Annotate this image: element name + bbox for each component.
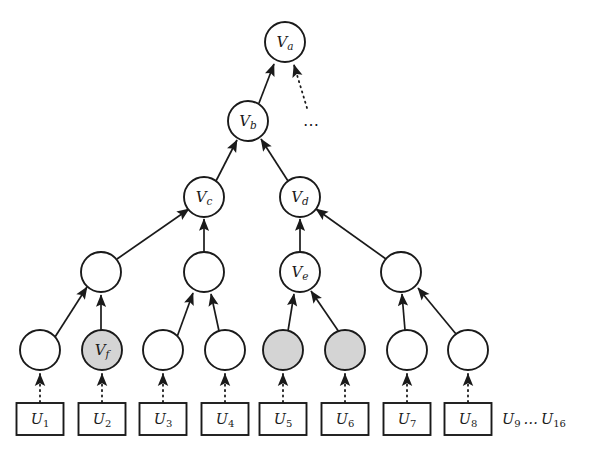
edge-Vd-to-Vb (261, 139, 288, 181)
node-n4g[interactable] (387, 330, 427, 370)
node-n4h[interactable] (448, 330, 488, 370)
leaf-U4[interactable]: U4 (202, 403, 249, 435)
node-n3b[interactable] (184, 252, 224, 292)
edge-n3d-to-Vd (316, 209, 386, 259)
node-circle-n3d (381, 252, 421, 292)
node-n4c[interactable] (143, 330, 183, 370)
node-n4a[interactable] (20, 330, 60, 370)
edge-n4f-to-Ve (311, 291, 339, 332)
node-circle-n3b (184, 252, 224, 292)
leaf-U5[interactable]: U5 (260, 403, 307, 435)
leaf-U1[interactable]: U1 (17, 403, 64, 435)
edge-n4d-to-n3b (211, 294, 219, 331)
node-circle-n4e (263, 330, 303, 370)
edge-n3a-to-Vc (117, 209, 189, 259)
edge-n4h-to-n3d (418, 288, 456, 334)
node-circle-n3a (81, 252, 121, 292)
edge-n4c-to-n3b (177, 293, 193, 337)
edge-n4a-to-n3a (55, 287, 87, 337)
node-n4f[interactable] (325, 330, 365, 370)
node-n3a[interactable] (81, 252, 121, 292)
node-Vb[interactable]: Vb (228, 101, 268, 141)
edge-dotted-ellipsis-to-Va (294, 65, 307, 108)
leaf-U8[interactable]: U8 (445, 403, 492, 435)
leaf-range-tail-label: U9 … U16 (502, 411, 566, 429)
edge-n4e-to-Ve (288, 294, 294, 331)
hierarchy-tree-diagram: Va Vb ⋯ Vc Vd (0, 0, 589, 450)
leaf-nodes-group: U1 U2 U3 U4 (17, 403, 566, 435)
node-circle-n4d (205, 330, 245, 370)
leaf-U2[interactable]: U2 (79, 403, 126, 435)
node-circle-n4a (20, 330, 60, 370)
node-circle-n4c (143, 330, 183, 370)
node-n3d[interactable] (381, 252, 421, 292)
node-circle-n4g (387, 330, 427, 370)
node-circle-n4f (325, 330, 365, 370)
leaf-U7[interactable]: U7 (384, 403, 431, 435)
edge-Vb-to-Va (259, 64, 274, 103)
node-Vd[interactable]: Vd (280, 177, 320, 217)
node-Vf[interactable]: Vf (82, 330, 122, 370)
node-Vc[interactable]: Vc (184, 177, 224, 217)
node-Ve[interactable]: Ve (280, 252, 320, 292)
node-n4d[interactable] (205, 330, 245, 370)
node-circle-n4h (448, 330, 488, 370)
edge-n4g-to-n3d (402, 294, 405, 330)
edge-Vc-to-Vb (216, 140, 237, 181)
ellipsis-marker: ⋯ (303, 115, 322, 134)
figure-root: Va Vb ⋯ Vc Vd (0, 0, 589, 450)
node-Va[interactable]: Va (265, 22, 305, 62)
node-n4e[interactable] (263, 330, 303, 370)
leaf-U3[interactable]: U3 (140, 403, 187, 435)
leaf-U6[interactable]: U6 (322, 403, 369, 435)
